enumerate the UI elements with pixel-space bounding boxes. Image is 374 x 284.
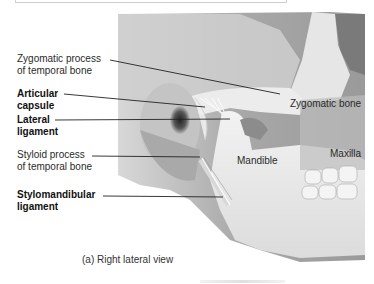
label-articular-capsule: Articular capsule <box>17 88 58 112</box>
label-stylomandibular-ligament: Stylomandibular ligament <box>17 189 95 213</box>
label-zygomatic-bone: Zygomatic bone <box>290 98 361 110</box>
tmj-illustration <box>0 0 374 284</box>
label-lateral-ligament: Lateral ligament <box>17 114 58 138</box>
label-maxilla: Maxilla <box>330 148 361 160</box>
figure-caption: (a) Right lateral view <box>82 254 173 265</box>
label-styloid-process: Styloid process of temporal bone <box>17 149 92 173</box>
bottom-decorative-strip <box>200 280 285 283</box>
label-mandible: Mandible <box>237 155 278 167</box>
label-zygomatic-process: Zygomatic process of temporal bone <box>17 53 101 77</box>
